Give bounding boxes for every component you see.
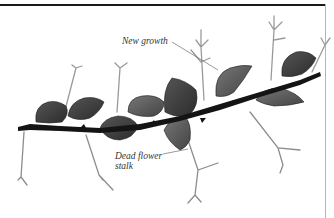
leaf	[128, 96, 164, 117]
leaf	[36, 102, 68, 124]
leaf	[282, 52, 316, 77]
leaves	[36, 52, 316, 150]
label-dead-flower-stalk: Dead flower stalk	[115, 151, 175, 171]
leaf	[164, 78, 197, 117]
leaf	[68, 98, 104, 120]
illustration-frame: New growth Dead flower stalk	[0, 0, 334, 218]
label-new-growth: New growth	[122, 36, 168, 46]
branch-illustration	[0, 0, 334, 218]
leaf	[216, 65, 252, 96]
